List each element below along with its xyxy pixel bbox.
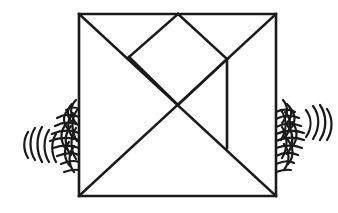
tangram-figure-root [0, 0, 338, 213]
tangram-figure-svg [0, 0, 338, 213]
